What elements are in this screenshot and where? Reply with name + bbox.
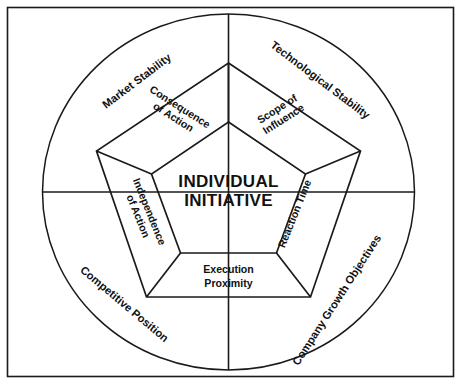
center-label-line1: INDIVIDUAL — [178, 172, 278, 191]
diagram-canvas: INDIVIDUAL INITIATIVE Consequence of Act… — [0, 0, 461, 384]
individual-initiative-diagram: INDIVIDUAL INITIATIVE Consequence of Act… — [0, 0, 461, 384]
center-label-line2: INITIATIVE — [184, 191, 273, 210]
band-label-execution-proximity-line1: Execution — [203, 263, 254, 275]
band-label-execution-proximity-line2: Proximity — [204, 277, 252, 289]
